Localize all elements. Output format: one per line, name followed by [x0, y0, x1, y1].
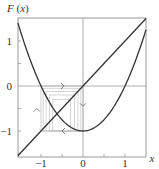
x-tick-label: 0: [80, 157, 86, 169]
y-tick-label: 1: [7, 35, 13, 47]
x-tick-label: −1: [35, 157, 47, 169]
x-tick-label: 1: [122, 157, 128, 169]
identity-line: [18, 19, 146, 156]
arrow-up-icon: [34, 109, 40, 112]
y-tick-label: 0: [7, 80, 13, 92]
y-tick-label: −1: [0, 125, 12, 137]
y-axis-label: F (x): [6, 2, 29, 15]
cobweb-box: [49, 95, 74, 131]
x-axis-label: x: [149, 152, 155, 164]
cobweb-chart: −101−101xF (x): [0, 0, 159, 169]
